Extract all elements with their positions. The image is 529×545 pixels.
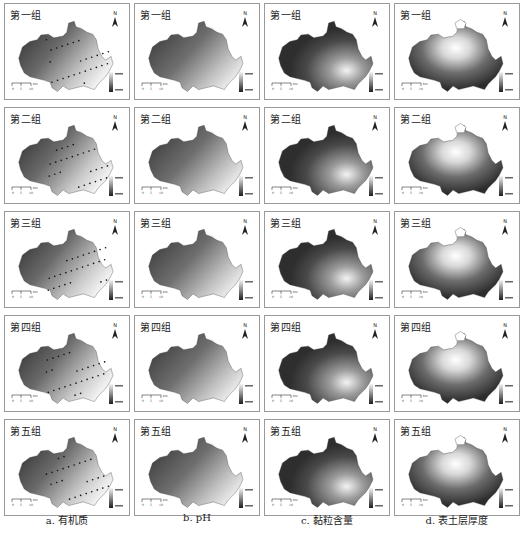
svg-text:0: 0 xyxy=(272,191,274,195)
north-arrow-icon: N xyxy=(369,113,381,133)
group-label: 第三组 xyxy=(270,215,302,230)
map-panel-b: 第三组Nkm0510 xyxy=(134,211,260,308)
group-label: 第二组 xyxy=(400,111,432,126)
svg-text:5: 5 xyxy=(20,191,22,195)
map-panel-b: 第五组Nkm0510 xyxy=(134,419,260,516)
map-panel-d: 第五组Nkm0510 xyxy=(394,419,520,516)
group-label: 第四组 xyxy=(270,319,302,334)
color-legend xyxy=(367,172,385,198)
svg-text:km: km xyxy=(293,186,298,190)
svg-text:10: 10 xyxy=(159,191,163,195)
svg-text:N: N xyxy=(243,426,247,432)
svg-text:N: N xyxy=(113,426,117,432)
color-legend xyxy=(497,68,515,94)
map-panel-d: 第一组Nkm0510 xyxy=(394,3,520,100)
group-label: 第五组 xyxy=(270,423,302,438)
group-label: 第二组 xyxy=(270,111,302,126)
scale-bar-icon: km0510 xyxy=(271,393,301,403)
svg-text:0: 0 xyxy=(272,503,274,507)
color-legend xyxy=(237,380,255,406)
svg-text:N: N xyxy=(503,322,507,328)
svg-text:5: 5 xyxy=(280,87,282,91)
group-label: 第一组 xyxy=(140,7,172,22)
svg-text:km: km xyxy=(293,82,298,86)
svg-text:10: 10 xyxy=(29,399,33,403)
scale-bar-icon: km0510 xyxy=(141,497,171,507)
north-arrow-icon: N xyxy=(109,425,121,445)
svg-text:5: 5 xyxy=(410,399,412,403)
svg-text:N: N xyxy=(503,10,507,16)
svg-text:5: 5 xyxy=(410,87,412,91)
svg-text:N: N xyxy=(373,114,377,120)
group-label: 第二组 xyxy=(140,111,172,126)
map-row: 第二组Nkm0510第二组Nkm0510第二组Nkm0510第二组Nkm0510 xyxy=(4,107,526,204)
group-label: 第三组 xyxy=(140,215,172,230)
map-row: 第一组Nkm0510第一组Nkm0510第一组Nkm0510第一组Nkm0510 xyxy=(4,3,526,100)
color-legend xyxy=(107,276,125,302)
svg-text:N: N xyxy=(113,114,117,120)
map-row: 第四组Nkm0510第四组Nkm0510第四组Nkm0510第四组Nkm0510 xyxy=(4,315,526,412)
svg-text:10: 10 xyxy=(289,87,293,91)
svg-text:km: km xyxy=(423,186,428,190)
scale-bar-icon: km0510 xyxy=(11,81,41,91)
svg-text:N: N xyxy=(113,218,117,224)
map-row: 第五组Nkm0510第五组Nkm0510第五组Nkm0510第五组Nkm0510 xyxy=(4,419,526,516)
svg-text:km: km xyxy=(423,290,428,294)
svg-text:N: N xyxy=(243,322,247,328)
svg-text:5: 5 xyxy=(20,87,22,91)
color-legend xyxy=(237,484,255,510)
group-label: 第三组 xyxy=(10,215,42,230)
color-legend xyxy=(237,68,255,94)
svg-text:0: 0 xyxy=(142,87,144,91)
group-label: 第三组 xyxy=(400,215,432,230)
color-legend xyxy=(367,380,385,406)
svg-text:0: 0 xyxy=(272,399,274,403)
scale-bar-icon: km0510 xyxy=(401,81,431,91)
map-panel-a: 第四组Nkm0510 xyxy=(4,315,130,412)
svg-text:km: km xyxy=(163,498,168,502)
svg-text:10: 10 xyxy=(289,295,293,299)
svg-text:km: km xyxy=(163,82,168,86)
map-panel-b: 第二组Nkm0510 xyxy=(134,107,260,204)
caption-b: b. pH xyxy=(134,512,260,527)
color-legend xyxy=(497,484,515,510)
svg-text:0: 0 xyxy=(12,87,14,91)
svg-text:km: km xyxy=(33,394,38,398)
north-arrow-icon: N xyxy=(499,425,511,445)
svg-text:10: 10 xyxy=(159,503,163,507)
north-arrow-icon: N xyxy=(499,321,511,341)
scale-bar-icon: km0510 xyxy=(11,393,41,403)
color-legend xyxy=(107,172,125,198)
svg-text:0: 0 xyxy=(142,399,144,403)
north-arrow-icon: N xyxy=(499,113,511,133)
map-panel-b: 第一组Nkm0510 xyxy=(134,3,260,100)
svg-text:N: N xyxy=(243,10,247,16)
svg-text:km: km xyxy=(293,498,298,502)
map-panel-d: 第四组Nkm0510 xyxy=(394,315,520,412)
svg-text:5: 5 xyxy=(410,295,412,299)
north-arrow-icon: N xyxy=(369,321,381,341)
group-label: 第五组 xyxy=(400,423,432,438)
svg-text:10: 10 xyxy=(419,399,423,403)
svg-text:5: 5 xyxy=(20,503,22,507)
svg-text:km: km xyxy=(33,498,38,502)
svg-text:5: 5 xyxy=(150,399,152,403)
scale-bar-icon: km0510 xyxy=(141,185,171,195)
group-label: 第五组 xyxy=(10,423,42,438)
svg-text:km: km xyxy=(423,394,428,398)
svg-text:0: 0 xyxy=(402,295,404,299)
group-label: 第二组 xyxy=(10,111,42,126)
map-panel-a: 第三组Nkm0510 xyxy=(4,211,130,308)
scale-bar-icon: km0510 xyxy=(401,185,431,195)
scale-bar-icon: km0510 xyxy=(401,393,431,403)
svg-text:10: 10 xyxy=(419,503,423,507)
svg-text:5: 5 xyxy=(20,295,22,299)
svg-text:5: 5 xyxy=(410,503,412,507)
scale-bar-icon: km0510 xyxy=(11,497,41,507)
svg-text:0: 0 xyxy=(142,503,144,507)
svg-text:N: N xyxy=(503,426,507,432)
scale-bar-icon: km0510 xyxy=(271,497,301,507)
scale-bar-icon: km0510 xyxy=(401,497,431,507)
svg-text:N: N xyxy=(243,218,247,224)
svg-text:5: 5 xyxy=(280,503,282,507)
